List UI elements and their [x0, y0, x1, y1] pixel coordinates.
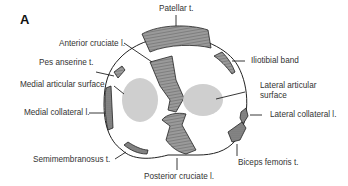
- lateral-articular-surface: [183, 84, 223, 116]
- label-semimembranosus: Semimembranosus t.: [33, 155, 110, 165]
- label-biceps-femoris: Biceps femoris t.: [238, 158, 299, 168]
- label-patellar-tendon: Patellar t.: [159, 4, 194, 14]
- label-iliotibial-band: Iliotibial band: [251, 56, 299, 66]
- label-anterior-cruciate: Anterior cruciate l.: [59, 39, 125, 49]
- label-posterior-cruciate: Posterior cruciate l.: [144, 172, 214, 182]
- label-lateral-collateral: Lateral collateral l.: [270, 110, 336, 120]
- label-lateral-articular-1: Lateral articular: [260, 81, 316, 91]
- medial-articular-surface: [122, 78, 158, 122]
- label-medial-articular: Medial articular surface: [20, 80, 105, 90]
- label-medial-collateral: Medial collateral l.: [24, 108, 90, 118]
- label-pes-anserine: Pes anserine t.: [39, 58, 94, 68]
- label-lateral-articular-2: surface: [260, 91, 287, 101]
